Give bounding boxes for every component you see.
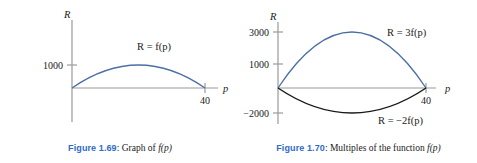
- figure-1-69-caption-text: Graph of: [122, 143, 158, 153]
- figure-1-70-caption: Figure 1.70: Multiples of the function f…: [240, 143, 477, 154]
- y-axis-label: R: [269, 11, 277, 22]
- three-f-of-p-curve-label: R = 3f(p): [387, 27, 427, 39]
- f-of-p-curve: [72, 65, 205, 88]
- figure-1-70-caption-math: f(p): [427, 143, 441, 153]
- x-tick-label-40: 40: [200, 95, 210, 106]
- negative-two-f-of-p-curve-label: R = −2f(p): [378, 115, 424, 127]
- x-tick-label-40: 40: [421, 95, 431, 106]
- figure-1-69: R p 1000 40 R = f(p) Figure 1.69: Graph …: [0, 0, 240, 163]
- x-axis-label: p: [222, 83, 228, 94]
- figure-1-69-number: Figure 1.69: [68, 143, 117, 153]
- figure-1-70-number: Figure 1.70: [276, 143, 325, 153]
- figure-1-70-caption-text: Multiples of the function: [330, 143, 427, 153]
- y-tick-label-3000: 3000: [249, 27, 269, 38]
- x-axis-label: p: [444, 83, 450, 94]
- f-of-p-curve-label: R = f(p): [137, 41, 171, 53]
- figure-pair: R p 1000 40 R = f(p) Figure 1.69: Graph …: [0, 0, 477, 163]
- figure-1-69-caption-math: f(p): [158, 143, 172, 153]
- three-f-of-p-curve: [278, 32, 426, 88]
- figure-1-69-plot: R p 1000 40 R = f(p): [0, 0, 240, 135]
- figure-1-70: R p 3000 1000 −2000 40 R = 3f(p) R = −2f…: [240, 0, 477, 163]
- figure-1-70-plot: R p 3000 1000 −2000 40 R = 3f(p) R = −2f…: [240, 0, 477, 135]
- y-tick-label-minus-2000: −2000: [243, 108, 269, 119]
- negative-two-f-of-p-curve: [278, 88, 426, 113]
- y-axis-label: R: [63, 9, 71, 20]
- y-tick-label-1000: 1000: [43, 60, 63, 71]
- y-tick-label-1000: 1000: [249, 59, 269, 70]
- figure-1-69-caption: Figure 1.69: Graph of f(p): [0, 143, 240, 154]
